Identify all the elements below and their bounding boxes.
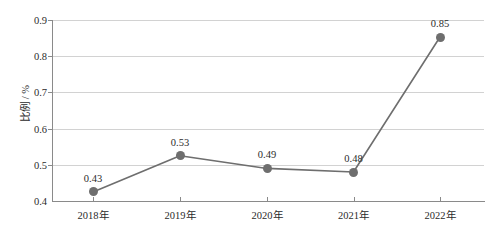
gridline-0.6: [52, 129, 484, 130]
gridline-0.7: [52, 92, 484, 93]
line-chart: 0.9 0.8 0.7 0.6 0.5 0.4 比例 / % 2018年 201…: [0, 0, 496, 238]
data-point-2020: [263, 164, 272, 173]
y-tick-mark-0.6: [48, 129, 52, 130]
gridline-0.8: [52, 56, 484, 57]
x-tick-label-2022: 2022年: [425, 207, 456, 222]
data-point-2022: [436, 33, 445, 42]
y-axis-title: 比例 / %: [17, 74, 32, 134]
gridline-0.9: [52, 20, 484, 21]
y-tick-mark-0.9: [48, 20, 52, 21]
data-point-2019: [176, 151, 185, 160]
data-label-2020: 0.49: [258, 149, 276, 160]
data-label-2018: 0.43: [84, 173, 102, 184]
x-tick-label-2021: 2021年: [338, 207, 369, 222]
x-tick-mark-2020: [267, 197, 268, 202]
x-axis-line: [52, 201, 485, 202]
x-tick-mark-2022: [440, 197, 441, 202]
x-tick-mark-2018: [93, 197, 94, 202]
y-tick-label-0.9: 0.9: [0, 15, 47, 26]
y-tick-mark-0.7: [48, 92, 52, 93]
data-point-2018: [89, 187, 98, 196]
y-tick-label-0.8: 0.8: [0, 51, 47, 62]
y-tick-label-0.4: 0.4: [0, 196, 47, 207]
x-tick-label-2020: 2020年: [252, 207, 283, 222]
x-tick-label-2018: 2018年: [78, 207, 109, 222]
plot-area: [52, 20, 484, 201]
data-label-2022: 0.85: [431, 18, 449, 29]
data-label-2021: 0.48: [344, 153, 362, 164]
y-tick-label-0.5: 0.5: [0, 159, 47, 170]
x-tick-mark-2021: [354, 197, 355, 202]
data-label-2019: 0.53: [171, 137, 189, 148]
data-point-2021: [349, 168, 358, 177]
y-tick-mark-0.5: [48, 165, 52, 166]
x-tick-mark-2019: [180, 197, 181, 202]
y-axis-line: [52, 20, 53, 202]
x-tick-label-2019: 2019年: [165, 207, 196, 222]
y-tick-mark-0.8: [48, 56, 52, 57]
